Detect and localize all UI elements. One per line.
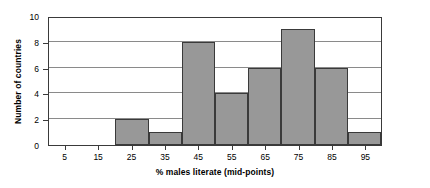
bar bbox=[115, 119, 148, 145]
x-tick-mark bbox=[65, 146, 66, 150]
plot-area bbox=[48, 17, 382, 146]
x-tick-mark bbox=[232, 146, 233, 150]
x-tick-mark bbox=[165, 146, 166, 150]
bar bbox=[315, 68, 348, 145]
x-tick-mark bbox=[265, 146, 266, 150]
bar-series bbox=[49, 18, 381, 145]
histogram-figure: Number of countries 0246810 515253545556… bbox=[0, 0, 430, 188]
y-axis-title: Number of countries bbox=[11, 17, 25, 146]
x-tick-label: 85 bbox=[315, 152, 348, 162]
x-tick-mark bbox=[299, 146, 300, 150]
bar-slot bbox=[281, 18, 314, 145]
bar bbox=[281, 29, 314, 145]
x-tick-mark bbox=[332, 146, 333, 150]
bar-slot bbox=[49, 18, 82, 145]
x-tick-mark bbox=[198, 146, 199, 150]
x-tick-label: 65 bbox=[248, 152, 281, 162]
bar-slot bbox=[248, 18, 281, 145]
x-tick-mark bbox=[98, 146, 99, 150]
bar-slot bbox=[348, 18, 381, 145]
bar-slot bbox=[215, 18, 248, 145]
bar-slot bbox=[315, 18, 348, 145]
x-tick-label: 75 bbox=[282, 152, 315, 162]
bar-slot bbox=[115, 18, 148, 145]
bar bbox=[215, 93, 248, 145]
x-tick-mark bbox=[365, 146, 366, 150]
bar-slot bbox=[182, 18, 215, 145]
bar-slot bbox=[149, 18, 182, 145]
x-axis-title: % males literate (mid-points) bbox=[48, 167, 382, 178]
x-tick-label: 15 bbox=[81, 152, 114, 162]
x-tick-label: 25 bbox=[115, 152, 148, 162]
x-tick-label: 45 bbox=[182, 152, 215, 162]
x-tick-label: 95 bbox=[349, 152, 382, 162]
bar-slot bbox=[82, 18, 115, 145]
bar bbox=[348, 132, 381, 145]
bar bbox=[248, 68, 281, 145]
bar bbox=[182, 42, 215, 145]
x-tick-label: 55 bbox=[215, 152, 248, 162]
x-tick-label: 5 bbox=[48, 152, 81, 162]
x-tick-mark bbox=[132, 146, 133, 150]
bar bbox=[149, 132, 182, 145]
x-tick-label: 35 bbox=[148, 152, 181, 162]
